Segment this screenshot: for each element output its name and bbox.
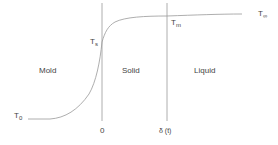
liquid-region-label: Liquid xyxy=(194,67,215,75)
mold-region-label: Mold xyxy=(39,67,56,75)
t0-label: T0 xyxy=(14,112,22,121)
tm-label: Tm xyxy=(171,19,181,28)
ts-label: Ts xyxy=(90,38,98,47)
solidification-diagram: T0 Ts Tm T∞ Mold Solid Liquid 0 δ (t) xyxy=(0,0,278,145)
origin-label: 0 xyxy=(100,127,104,135)
solid-region-label: Solid xyxy=(122,67,140,75)
tinf-label: T∞ xyxy=(258,10,267,19)
interface-position-label: δ (t) xyxy=(159,127,171,134)
